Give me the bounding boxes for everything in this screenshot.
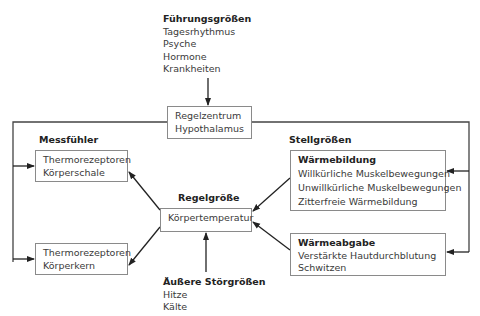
stoergroessen-item: Kälte (163, 301, 265, 314)
fuehrungsgroessen-item: Tagesrhythmus (163, 26, 251, 39)
regelzentrum-box: Regelzentrum Hypothalamus (167, 106, 252, 139)
stoergroessen-title: Äußere Störgrößen (163, 276, 265, 289)
waermeabgabe-title: Wärmeabgabe (298, 237, 438, 250)
waermebildung-item: Willkürliche Muskelbewegungen (298, 167, 438, 181)
regelgroesse-label: Regelgröße (178, 192, 240, 205)
fuehrungsgroessen-title: Führungsgrößen (163, 13, 251, 26)
fuehrungsgroessen-item: Krankheiten (163, 63, 251, 76)
waermebildung-item: Zitterfreie Wärmebildung (298, 195, 438, 209)
fuehrungsgroessen-item: Hormone (163, 51, 251, 64)
messfuehler-label: Messfühler (39, 134, 98, 147)
box-line: Thermorezeptoren (43, 154, 120, 167)
waermeabgabe-item: Schwitzen (298, 262, 438, 275)
thermorezeptoren-koerperkern-box: Thermorezeptoren Körperkern (35, 243, 128, 275)
box-line: Körperschale (43, 167, 120, 180)
thermorezeptoren-koerperschale-box: Thermorezeptoren Körperschale (35, 150, 128, 182)
waermeabgabe-item: Verstärkte Hautdurchblutung (298, 250, 438, 263)
stellgroessen-label: Stellgrößen (289, 134, 351, 147)
stoergroessen-group: Äußere Störgrößen Hitze Kälte (163, 276, 265, 314)
waermebildung-box: Wärmebildung Willkürliche Muskelbewegung… (290, 150, 446, 211)
regelzentrum-label: Regelzentrum (175, 110, 244, 123)
hypothalamus-label: Hypothalamus (175, 123, 244, 136)
waermebildung-title: Wärmebildung (298, 154, 438, 167)
fuehrungsgroessen-group: Führungsgrößen Tagesrhythmus Psyche Horm… (163, 13, 251, 76)
waermebildung-item: Unwillkürliche Muskelbewegungen (298, 181, 438, 195)
box-line: Thermorezeptoren (43, 247, 120, 260)
box-line: Körperkern (43, 260, 120, 273)
waermeabgabe-box: Wärmeabgabe Verstärkte Hautdurchblutung … (290, 233, 446, 276)
koerpertemperatur-label: Körpertemperatur (168, 212, 244, 225)
stoergroessen-item: Hitze (163, 289, 265, 302)
koerpertemperatur-box: Körpertemperatur (160, 208, 252, 232)
fuehrungsgroessen-item: Psyche (163, 38, 251, 51)
